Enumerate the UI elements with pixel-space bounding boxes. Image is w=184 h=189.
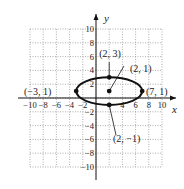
y-tick-label: −6 [85, 134, 94, 144]
point-label: (2, −1) [113, 133, 140, 145]
y-tick-label: 6 [90, 52, 94, 62]
y-tick-label: −8 [85, 148, 94, 158]
y-axis-arrow-icon [94, 14, 99, 20]
x-tick-label: 6 [133, 100, 137, 110]
x-tick-label: 10 [158, 100, 167, 110]
y-tick-label: −2 [85, 107, 94, 117]
point-label: (2, 1) [130, 63, 152, 75]
y-tick-label: −4 [85, 121, 95, 131]
y-tick-label: 10 [86, 24, 95, 34]
y-tick-label: −10 [81, 162, 94, 172]
x-tick-label: −10 [23, 100, 36, 110]
leader-line [109, 105, 116, 135]
x-axis-label: x [171, 103, 177, 115]
point-label: (7, 1) [146, 86, 168, 98]
x-axis-arrow-icon [170, 96, 176, 101]
y-axis-label: y [103, 12, 109, 24]
data-point [140, 89, 145, 94]
data-point [74, 89, 79, 94]
point-label: (−3, 1) [24, 86, 51, 98]
y-tick-label: 4 [90, 65, 95, 75]
x-tick-label: −6 [52, 100, 61, 110]
point-label: (2, 3) [99, 48, 121, 60]
x-tick-label: 8 [147, 100, 151, 110]
x-tick-label: −8 [39, 100, 48, 110]
x-tick-label: −4 [65, 100, 75, 110]
y-tick-label: 8 [90, 38, 94, 48]
ellipse-graph: xy−10−8−6−4−246810108642−2−4−6−8−10(2, 1… [0, 0, 184, 189]
